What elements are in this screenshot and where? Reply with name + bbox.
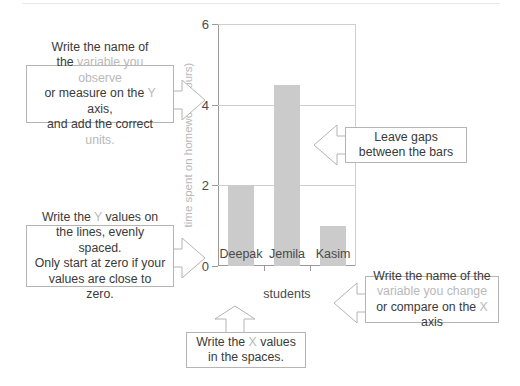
x-axis-name-callout-box: Write the name of thevariable you change…	[365, 276, 499, 323]
y-axis-tick	[212, 24, 218, 25]
callout-line: the variable you observe	[34, 55, 166, 86]
bar	[274, 85, 300, 267]
callout-line: values are close to zero.	[34, 272, 166, 303]
callout-line: Write the X values	[196, 335, 296, 351]
callout-line: Write the name of	[34, 40, 166, 56]
x-values-callout-box: Write the X valuesin the spaces.	[186, 332, 306, 368]
gridline	[218, 24, 356, 25]
y-values-callout-box: Write the Y values onthe lines, evenly s…	[26, 225, 174, 287]
callout-line: and add the correct units.	[34, 117, 166, 148]
callout-line: Write the Y values on	[34, 210, 166, 226]
callout-line: in the spaces.	[196, 350, 296, 366]
diagram-canvas: 0246 DeepakJemilaKasim time spent on hom…	[0, 0, 520, 386]
y-axis-tick-label: 6	[202, 17, 209, 32]
x-axis-category-label: Kasim	[316, 247, 351, 261]
y-axis-tick	[212, 266, 218, 267]
y-axis-tick-label: 2	[202, 178, 209, 193]
y-axis-tick	[212, 185, 218, 186]
callout-line: or compare on the X axis	[373, 300, 491, 331]
callout-line: variable you change	[373, 284, 491, 300]
y-axis-tick	[212, 105, 218, 106]
x-axis-category-label: Deepak	[219, 247, 262, 261]
callout-line: the lines, evenly spaced.	[34, 225, 166, 256]
x-axis-tick	[264, 266, 265, 271]
top-divider	[22, 3, 500, 4]
callout-line: or measure on the Y axis,	[34, 86, 166, 117]
gaps-callout-box: Leave gapsbetween the bars	[345, 127, 467, 163]
x-axis-tick	[310, 266, 311, 271]
x-axis-category-label: Jemila	[269, 247, 305, 261]
callout-line: Leave gaps	[359, 130, 453, 146]
x-axis-title: students	[263, 287, 310, 301]
callout-line: Only start at zero if your	[34, 256, 166, 272]
y-axis-name-callout-box: Write the name ofthe variable you observ…	[26, 65, 174, 123]
callout-line: Write the name of the	[373, 269, 491, 285]
callout-line: between the bars	[359, 145, 453, 161]
